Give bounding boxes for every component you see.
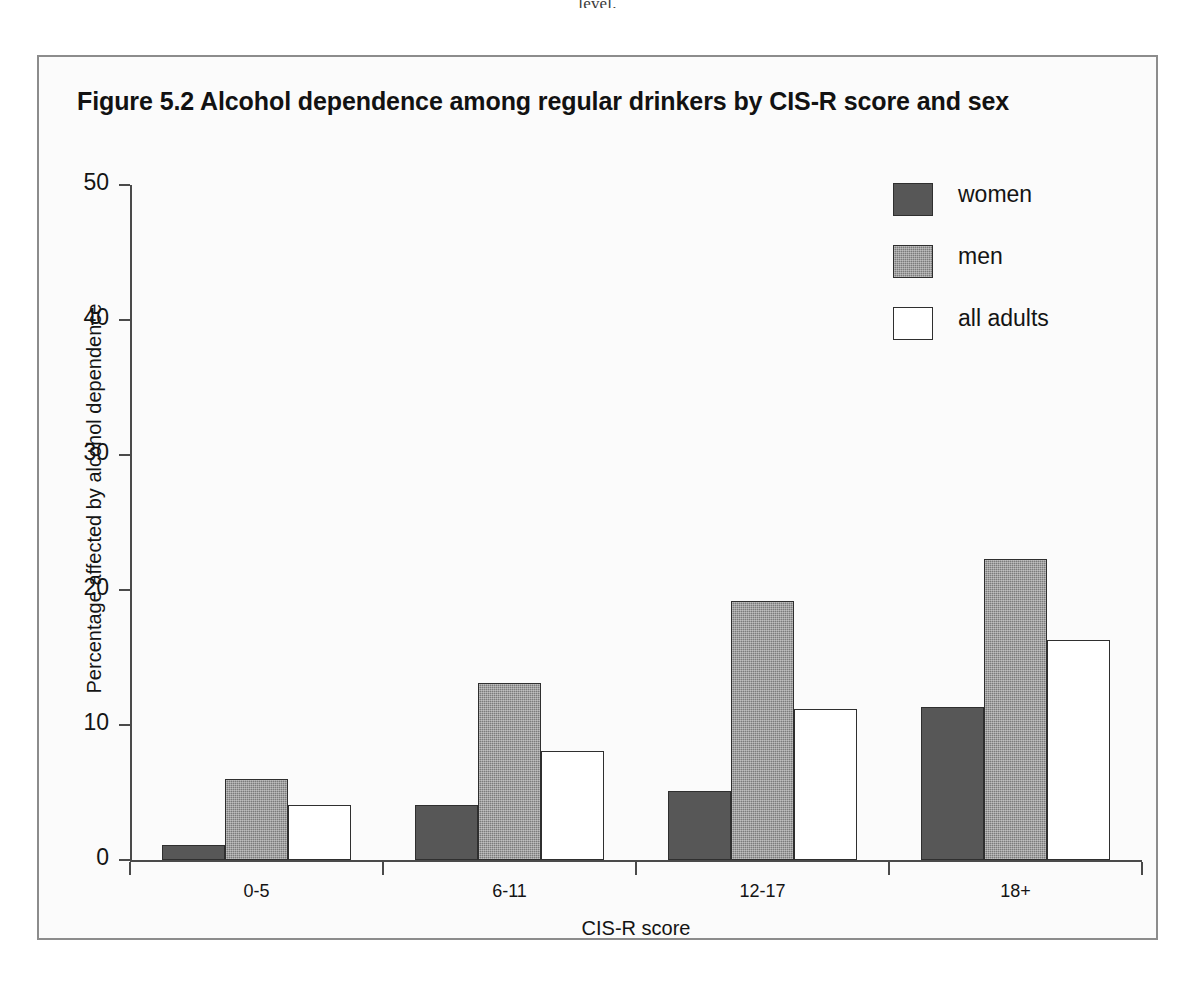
y-axis-tick (119, 724, 130, 726)
y-axis-tick (119, 184, 130, 186)
bar-women-12-17 (668, 791, 731, 860)
y-axis-tick (119, 589, 130, 591)
legend-swatch-women (893, 183, 933, 216)
y-axis-tick-label: 30 (49, 439, 109, 466)
page-text-fragment: level. (0, 0, 1195, 8)
x-axis-tick (635, 862, 637, 875)
bar-all-adults-6-11 (541, 751, 604, 860)
x-axis-tick (888, 862, 890, 875)
bar-women-18+ (921, 707, 984, 860)
x-axis-tick-label: 0-5 (187, 881, 327, 902)
bar-men-6-11 (478, 683, 541, 860)
legend-swatch-men (893, 245, 933, 278)
legend-label: all adults (958, 305, 1049, 332)
bar-all-adults-18+ (1047, 640, 1110, 860)
y-axis-title: Percentage affected by alcohol dependenc… (83, 219, 106, 779)
bar-women-6-11 (415, 805, 478, 860)
bar-men-18+ (984, 559, 1047, 860)
x-axis-title: CIS-R score (130, 917, 1142, 940)
y-axis-tick-label: 20 (49, 574, 109, 601)
x-axis-tick (1141, 862, 1143, 875)
bar-women-0-5 (162, 845, 225, 860)
x-axis-tick-label: 6-11 (440, 881, 580, 902)
y-axis-tick-label: 40 (49, 304, 109, 331)
y-axis-tick-label: 0 (49, 844, 109, 871)
legend-label: men (958, 243, 1003, 270)
x-axis-tick (382, 862, 384, 875)
bar-men-0-5 (225, 779, 288, 860)
figure-frame: Figure 5.2 Alcohol dependence among regu… (37, 55, 1158, 940)
bar-all-adults-0-5 (288, 805, 351, 860)
y-axis-tick (119, 319, 130, 321)
legend-swatch-all-adults (893, 307, 933, 340)
y-axis-tick-label: 10 (49, 709, 109, 736)
y-axis-tick (119, 859, 130, 861)
y-axis-tick (119, 454, 130, 456)
bar-all-adults-12-17 (794, 709, 857, 860)
x-axis-tick (129, 862, 131, 875)
x-axis-tick-label: 18+ (946, 881, 1086, 902)
legend-label: women (958, 181, 1032, 208)
bar-men-12-17 (731, 601, 794, 860)
y-axis-tick-label: 50 (49, 169, 109, 196)
x-axis-tick-label: 12-17 (693, 881, 833, 902)
y-axis-line (130, 185, 132, 862)
